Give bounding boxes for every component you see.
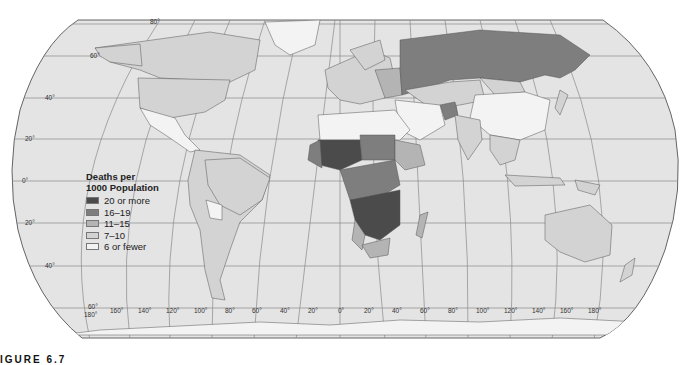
lon-label: 20°: [308, 307, 318, 314]
legend-swatch: [86, 243, 99, 250]
legend-label: 6 or fewer: [104, 241, 146, 252]
lon-label: 120°: [504, 307, 518, 314]
lon-label: 100°: [194, 307, 208, 314]
lon-label: 80°: [225, 307, 235, 314]
lon-label: 80°: [448, 307, 458, 314]
lon-label: 40°: [392, 307, 402, 314]
sudan-region: [360, 135, 395, 160]
legend-item-16-19: 16–19: [86, 207, 206, 219]
lon-label: 140°: [138, 307, 152, 314]
lon-label: 160°: [110, 307, 124, 314]
map-legend: Deaths per 1000 Population 20 or more 16…: [86, 171, 206, 253]
legend-item-20-or-more: 20 or more: [86, 195, 206, 207]
figure-label: IGURE 6.7: [0, 354, 66, 365]
lon-label: 0°: [338, 307, 345, 314]
lat-label: 20°: [25, 135, 35, 142]
legend-item-6-or-fewer: 6 or fewer: [86, 241, 206, 253]
lon-label: 40°: [280, 307, 290, 314]
lon-label: 160°: [560, 307, 574, 314]
lon-label: 60°: [420, 307, 430, 314]
legend-label: 11–15: [104, 218, 130, 229]
legend-swatch: [86, 197, 99, 204]
lon-label: 180°: [84, 311, 98, 318]
lat-label: 80°: [150, 18, 160, 25]
lon-label: 60°: [252, 307, 262, 314]
legend-title-line1: Deaths per: [86, 171, 206, 182]
lat-label: 40°: [45, 262, 55, 269]
lon-label: 20°: [364, 307, 374, 314]
figure-caption: IGURE 6.7: [0, 354, 66, 365]
lon-label: 140°: [532, 307, 546, 314]
lat-label: 20°: [25, 219, 35, 226]
lon-label: 100°: [476, 307, 490, 314]
lon-label: 120°: [166, 307, 180, 314]
legend-swatch: [86, 209, 99, 216]
lat-label: 60°: [88, 303, 98, 310]
legend-item-7-10: 7–10: [86, 230, 206, 242]
legend-label: 20 or more: [104, 195, 150, 206]
legend-swatch: [86, 220, 99, 227]
lon-label: 180°: [588, 307, 602, 314]
legend-item-11-15: 11–15: [86, 218, 206, 230]
legend-title-line2: 1000 Population: [86, 182, 206, 193]
legend-label: 16–19: [104, 207, 130, 218]
legend-label: 7–10: [104, 230, 125, 241]
lat-label: 0°: [22, 177, 29, 184]
legend-swatch: [86, 232, 99, 239]
lat-label: 40°: [45, 94, 55, 101]
lat-label: 60°: [90, 52, 100, 59]
